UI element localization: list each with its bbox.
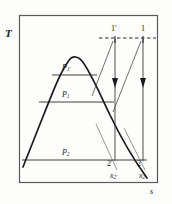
ts-diagram-figure: T s P1' P1 P2 1' 1 2' 2 x2' x2 — [0, 0, 172, 204]
quality-label-x2-prime-sub: 2' — [114, 175, 118, 180]
quality-label-x2-sub: 2 — [143, 175, 146, 180]
axis-label-temperature: T — [5, 28, 12, 39]
isobar-label-p1prime: P1' — [62, 64, 70, 72]
state-label-1: 1 — [141, 25, 145, 33]
state-label-2: 2 — [137, 160, 141, 168]
process-leader-1prime — [92, 41, 113, 96]
process-leader-1 — [113, 41, 141, 112]
quality-label-x2-prime: x2' — [110, 172, 117, 180]
expansion-arrowhead-1prime — [112, 78, 118, 88]
isobar-label-p1prime-sub: 1' — [67, 67, 71, 72]
isobar-label-p1-sub: 1 — [67, 94, 70, 99]
plot-frame — [20, 16, 158, 183]
state-label-1-prime: 1' — [111, 25, 116, 33]
diagram-canvas — [0, 0, 172, 204]
isobar-label-p1: P1 — [62, 91, 69, 99]
state-label-2-prime: 2' — [107, 160, 112, 168]
isobar-label-p2: P2 — [62, 149, 69, 157]
expansion-arrowhead-1 — [140, 78, 146, 88]
axis-label-entropy: s — [150, 188, 153, 196]
quality-label-x2: x2 — [139, 172, 145, 180]
isobar-label-p2-sub: 2 — [67, 152, 70, 157]
